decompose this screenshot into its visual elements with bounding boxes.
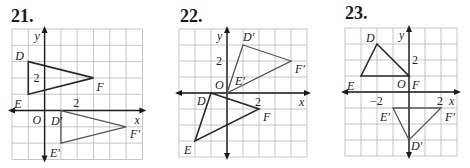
x-axis-label: x [448,94,455,108]
vertex-label: F' [444,110,455,124]
vertex-label: E [346,79,355,93]
x-tick-label: −2 [370,94,383,108]
vertex-label: E' [379,110,390,124]
vertex-label: D' [410,139,423,153]
vertex-label: F [411,78,420,92]
y-tick-label: 2 [412,53,418,67]
coordinate-grid: xyO2−22DEFD'E'F' [0,0,470,168]
arrow-right-icon [454,89,461,95]
y-axis-label: y [398,28,405,42]
vertex-label: D [365,31,375,45]
x-tick-label: 2 [437,94,443,108]
origin-label: O [397,77,406,91]
